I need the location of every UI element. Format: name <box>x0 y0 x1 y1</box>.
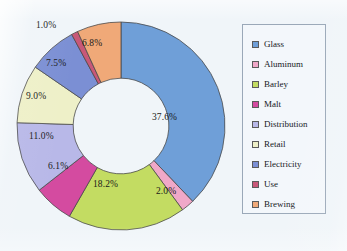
slice-label-retail: 9.0% <box>26 91 46 101</box>
slice-label-electricity: 7.5% <box>46 58 66 68</box>
legend-item-label: Use <box>264 180 278 189</box>
legend-item-label: Aluminum <box>264 60 303 69</box>
legend-swatch-icon <box>252 201 259 208</box>
legend-item-glass[interactable]: Glass <box>252 34 325 54</box>
chart-legend: GlassAluminumBarleyMaltDistributionRetai… <box>242 24 326 214</box>
legend-item-label: Distribution <box>264 120 308 129</box>
slice-label-glass: 37.6% <box>152 112 177 122</box>
legend-item-label: Malt <box>264 100 281 109</box>
slice-label-barley: 18.2% <box>93 179 118 189</box>
slice-label-brewing: 6.8% <box>82 38 102 48</box>
slice-label-malt: 6.1% <box>48 161 68 171</box>
legend-swatch-icon <box>252 181 259 188</box>
legend-swatch-icon <box>252 81 259 88</box>
legend-item-label: Retail <box>264 140 286 149</box>
donut-chart-figure: 37.6% 2.0% 18.2% 6.1% 11.0% 9.0% 7.5% 1.… <box>0 0 347 251</box>
slice-label-aluminum: 2.0% <box>156 186 176 196</box>
legend-item-electricity[interactable]: Electricity <box>252 154 325 174</box>
legend-item-distribution[interactable]: Distribution <box>252 114 325 134</box>
legend-item-label: Barley <box>264 80 288 89</box>
legend-item-aluminum[interactable]: Aluminum <box>252 54 325 74</box>
slice-label-distribution: 11.0% <box>29 131 54 141</box>
legend-item-brewing[interactable]: Brewing <box>252 194 325 214</box>
donut-svg <box>10 12 232 240</box>
legend-item-use[interactable]: Use <box>252 174 325 194</box>
legend-item-malt[interactable]: Malt <box>252 94 325 114</box>
legend-swatch-icon <box>252 61 259 68</box>
legend-item-barley[interactable]: Barley <box>252 74 325 94</box>
legend-swatch-icon <box>252 41 259 48</box>
donut-plot-area: 37.6% 2.0% 18.2% 6.1% 11.0% 9.0% 7.5% 1.… <box>10 12 232 240</box>
legend-swatch-icon <box>252 121 259 128</box>
slice-label-use: 1.0% <box>36 20 56 30</box>
legend-swatch-icon <box>252 101 259 108</box>
legend-item-label: Brewing <box>264 200 295 209</box>
legend-item-label: Glass <box>264 40 284 49</box>
legend-item-retail[interactable]: Retail <box>252 134 325 154</box>
donut-slices-group <box>17 22 225 230</box>
legend-swatch-icon <box>252 161 259 168</box>
legend-swatch-icon <box>252 141 259 148</box>
legend-item-label: Electricity <box>264 160 301 169</box>
